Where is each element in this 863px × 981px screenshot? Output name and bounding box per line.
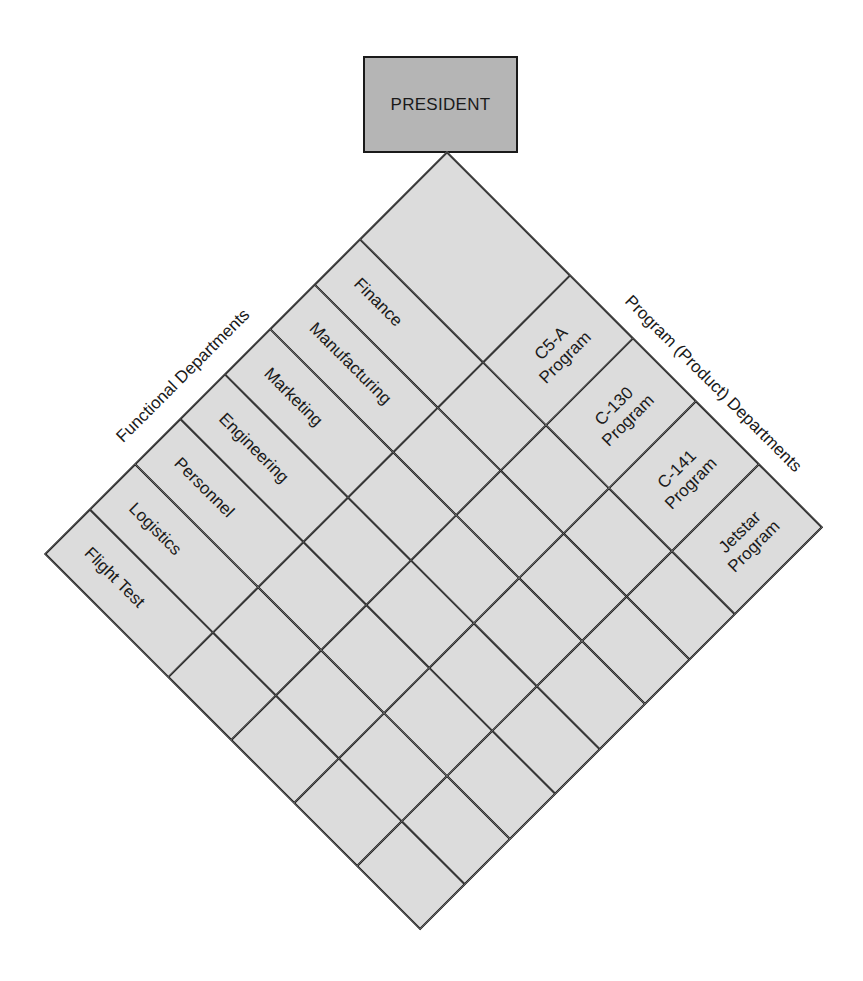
president-box: PRESIDENT — [363, 56, 518, 153]
president-label: PRESIDENT — [391, 95, 491, 115]
matrix-grid: C5-AProgramC-130ProgramC-141ProgramJetst… — [44, 151, 823, 930]
